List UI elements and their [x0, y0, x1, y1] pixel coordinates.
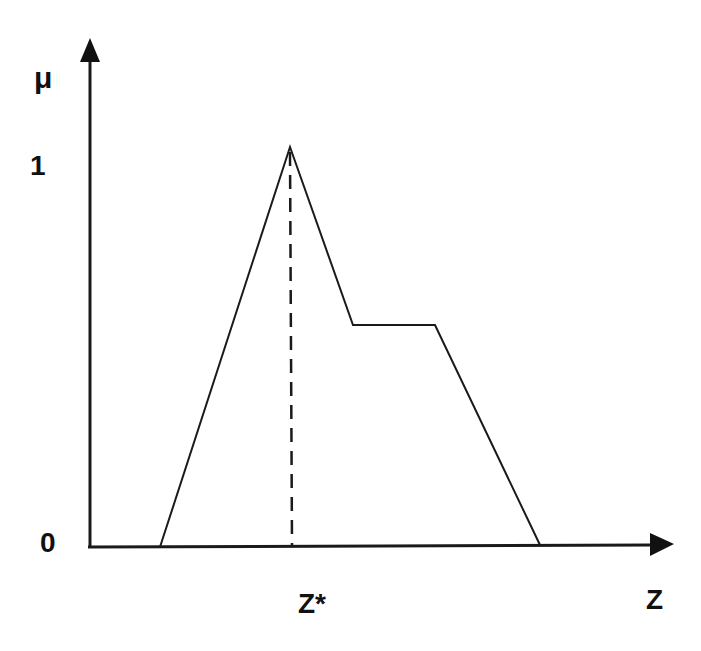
fuzzy-membership-diagram: μ 1 0 Z* Z	[0, 0, 701, 651]
x-axis-label: Z	[646, 584, 663, 615]
x-axis	[88, 545, 652, 547]
x-axis-arrowhead	[650, 533, 674, 556]
y-tick-zero: 0	[40, 527, 56, 558]
y-axis-arrowhead	[80, 38, 100, 62]
y-axis-label: μ	[34, 61, 52, 94]
x-marker-label: Z*	[298, 588, 326, 619]
membership-curve	[160, 147, 540, 547]
z-star-dashed-line	[290, 152, 292, 545]
y-tick-one: 1	[30, 150, 46, 181]
